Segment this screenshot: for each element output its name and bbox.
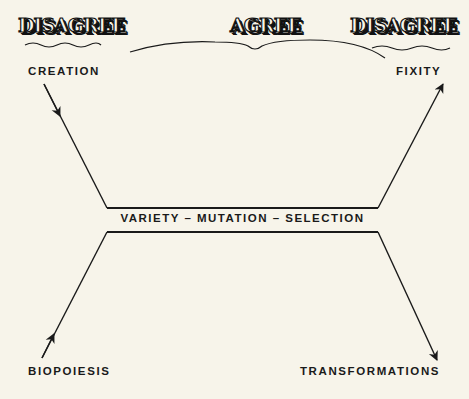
label-biopoiesis: BIOPOIESIS: [28, 365, 110, 377]
label-creation: CREATION: [28, 65, 100, 77]
fixity-arrow-line: [378, 84, 443, 208]
banner-agree: AGREE: [230, 14, 301, 36]
label-fixity: FIXITY: [396, 65, 441, 77]
banner-wave-right: [372, 46, 450, 50]
banner-disagree-right: DISAGREE: [350, 14, 457, 36]
label-transformations: TRANSFORMATIONS: [300, 365, 440, 377]
diagram-lines: [0, 0, 469, 399]
banner-wave-connector: [130, 40, 385, 58]
transformations-arrow-line: [378, 232, 437, 360]
banner-disagree-left: DISAGREE: [18, 14, 125, 36]
banner-wave-left: [25, 43, 101, 47]
diagram: DISAGREE AGREE DISAGREE CREATION FIXITY …: [0, 0, 469, 399]
label-variety-mutation-selection: VARIETY – MUTATION – SELECTION: [107, 212, 378, 224]
